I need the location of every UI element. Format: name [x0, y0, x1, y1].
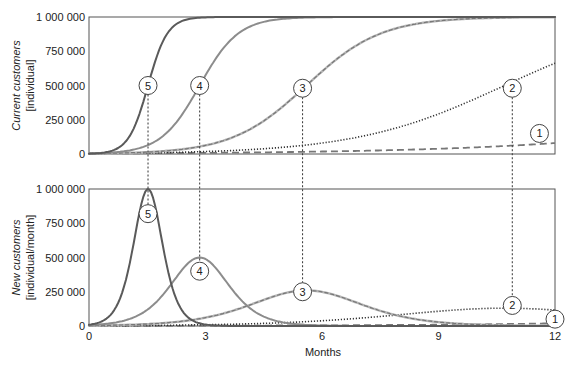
bottom-y-tick-label: 0: [79, 320, 85, 332]
top-y-axis-label: Current customers: [10, 40, 22, 131]
top-series-lines: [89, 17, 555, 154]
x-axis-label: Months: [305, 346, 342, 358]
top-callout-4: 4: [191, 77, 209, 95]
callout-label: 3: [300, 82, 306, 94]
bottom-series-line-5: [89, 189, 555, 326]
bottom-y-axis-label: New customers: [10, 219, 22, 295]
callout-label: 4: [197, 80, 203, 92]
bottom-x-axis-ticks: 036912: [86, 330, 561, 342]
top-callout-1: 1: [530, 124, 548, 142]
bottom-plot-frame: [89, 189, 555, 326]
bottom-callout-5: 5: [139, 205, 157, 223]
bottom-y-tick-label: 250 000: [45, 286, 85, 298]
top-series-line-3: [89, 17, 555, 153]
chart-figure: 0250 000500 000750 0001 000 000 Current …: [0, 0, 578, 370]
callout-label: 2: [509, 299, 515, 311]
bottom-y-axis-ticks: 0250 000500 000750 0001 000 000: [36, 183, 85, 332]
callout-label: 3: [300, 286, 306, 298]
bottom-callout-2: 2: [503, 296, 521, 314]
x-tick-label: 9: [435, 330, 441, 342]
x-tick-label: 0: [86, 330, 92, 342]
top-y-tick-label: 1 000 000: [36, 11, 85, 23]
bottom-series-lines: [89, 189, 555, 326]
top-y-tick-label: 500 000: [45, 80, 85, 92]
top-y-axis-unit: [individual]: [24, 60, 36, 112]
series-callouts: 5432154321: [139, 77, 564, 329]
bottom-y-tick-label: 500 000: [45, 252, 85, 264]
x-tick-label: 3: [202, 330, 208, 342]
top-series-line-4: [89, 17, 555, 154]
top-callout-5: 5: [139, 77, 157, 95]
bottom-callout-3: 3: [294, 283, 312, 301]
callout-label: 5: [145, 208, 151, 220]
x-tick-label: 12: [549, 330, 561, 342]
top-callout-3: 3: [294, 79, 312, 97]
top-y-tick-label: 250 000: [45, 114, 85, 126]
bottom-y-axis-unit: [individual/month]: [24, 215, 36, 301]
bottom-callout-1: 1: [546, 310, 564, 328]
callout-label: 2: [509, 82, 515, 94]
x-tick-label: 6: [319, 330, 325, 342]
bottom-callout-4: 4: [191, 262, 209, 280]
callout-label: 5: [145, 80, 151, 92]
top-series-line-3-overlay: [89, 17, 555, 153]
top-y-axis-ticks: 0250 000500 000750 0001 000 000: [36, 11, 85, 160]
top-panel-current-customers: 0250 000500 000750 0001 000 000 Current …: [10, 11, 555, 160]
bottom-panel-new-customers: 0250 000500 000750 0001 000 000 036912 N…: [10, 183, 561, 358]
top-plot-frame: [89, 17, 555, 154]
callout-label: 4: [197, 265, 203, 277]
top-series-line-5: [89, 17, 555, 154]
top-y-tick-label: 0: [79, 148, 85, 160]
top-callout-2: 2: [503, 79, 521, 97]
callout-label: 1: [536, 127, 542, 139]
bottom-y-tick-label: 750 000: [45, 217, 85, 229]
top-y-tick-label: 750 000: [45, 45, 85, 57]
callout-label: 1: [552, 313, 558, 325]
bottom-y-tick-label: 1 000 000: [36, 183, 85, 195]
